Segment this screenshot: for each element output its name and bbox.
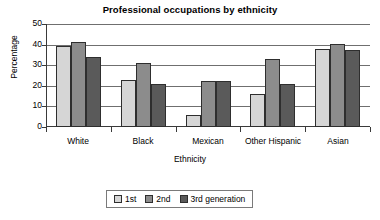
chart-legend: 1st2nd3rd generation bbox=[106, 190, 253, 208]
bar-group bbox=[315, 24, 360, 127]
bar-series-container bbox=[46, 24, 370, 127]
legend-swatch-icon bbox=[114, 195, 122, 203]
bar bbox=[71, 42, 86, 127]
chart-title: Professional occupations by ethnicity bbox=[0, 4, 380, 15]
legend-label: 3rd generation bbox=[191, 194, 246, 204]
y-tick-label: 10 bbox=[0, 101, 42, 110]
x-tick-mark bbox=[111, 127, 112, 132]
y-tick-label: 0 bbox=[0, 122, 42, 131]
x-tick-mark bbox=[46, 127, 47, 132]
bar bbox=[186, 115, 201, 127]
bar-chart-figure: Professional occupations by ethnicity Pe… bbox=[0, 0, 380, 220]
legend-entry: 1st bbox=[114, 194, 136, 204]
y-tick-label: 20 bbox=[0, 81, 42, 90]
bar bbox=[86, 57, 101, 127]
bar-group bbox=[121, 24, 166, 127]
legend-label: 2nd bbox=[156, 194, 170, 204]
x-tick-mark bbox=[370, 127, 371, 132]
bar-group bbox=[186, 24, 231, 127]
legend-label: 1st bbox=[125, 194, 136, 204]
x-tick-mark bbox=[305, 127, 306, 132]
bar bbox=[121, 80, 136, 127]
bar bbox=[151, 84, 166, 127]
bar bbox=[216, 81, 231, 127]
bar bbox=[250, 94, 265, 127]
bar bbox=[315, 49, 330, 127]
legend-entry: 2nd bbox=[145, 194, 170, 204]
y-tick-label: 50 bbox=[0, 19, 42, 28]
y-tick-label: 40 bbox=[0, 40, 42, 49]
x-tick-mark bbox=[176, 127, 177, 132]
legend-entry: 3rd generation bbox=[180, 194, 246, 204]
bar bbox=[56, 46, 71, 127]
bar bbox=[345, 50, 360, 127]
y-tick-label: 30 bbox=[0, 60, 42, 69]
bar bbox=[136, 63, 151, 127]
legend-swatch-icon bbox=[145, 195, 153, 203]
x-tick-label: Asian bbox=[293, 136, 380, 146]
bar-group bbox=[250, 24, 295, 127]
bar bbox=[330, 44, 345, 127]
bar-group bbox=[56, 24, 101, 127]
legend-swatch-icon bbox=[180, 195, 188, 203]
bar bbox=[201, 81, 216, 127]
bar bbox=[265, 59, 280, 127]
x-axis-title: Ethnicity bbox=[0, 154, 380, 164]
x-tick-mark bbox=[240, 127, 241, 132]
bar bbox=[280, 84, 295, 127]
